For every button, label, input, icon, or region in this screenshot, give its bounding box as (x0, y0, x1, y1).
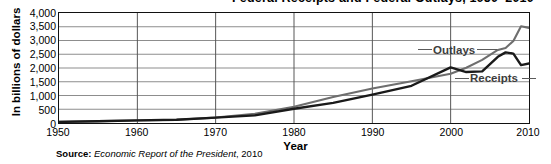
x-tick-label: 1990 (361, 126, 384, 138)
y-tick-label: 4,000 (10, 8, 56, 19)
y-tick-label: 1,500 (10, 77, 56, 88)
x-tick-label: 2010 (516, 126, 539, 138)
outlays-leader-line (418, 49, 432, 50)
receipts-leader-line-right (522, 78, 536, 79)
x-tick-label: 1960 (125, 126, 148, 138)
x-tick-label: 1980 (282, 126, 305, 138)
source-year: , 2010 (236, 148, 262, 159)
outlays-leader-line-right (477, 49, 497, 50)
x-tick-label: 1950 (46, 126, 69, 138)
y-tick-label: 1,000 (10, 91, 56, 102)
x-tick-label: 1970 (204, 126, 227, 138)
series-label-receipts: Receipts (470, 72, 518, 84)
series-label-outlays: Outlays (433, 44, 475, 56)
chart-figure: Federal Receipts and Federal Outlays, 19… (0, 0, 551, 164)
chart-title: Federal Receipts and Federal Outlays, 19… (232, 0, 534, 5)
y-tick-label: 3,500 (10, 21, 56, 32)
plot-svg (59, 13, 529, 123)
plot-area (58, 12, 530, 124)
receipts-leader-line (455, 78, 469, 79)
source-note: Source: Economic Report of the President… (56, 148, 262, 159)
y-tick-label: 2,000 (10, 63, 56, 74)
y-tick-label: 2,500 (10, 49, 56, 60)
x-axis-label-text: Year (283, 140, 307, 152)
x-axis-tick-labels: 1950 1960 1970 1980 1990 2000 2010 (0, 126, 551, 140)
source-label: Source: (56, 148, 91, 159)
y-tick-label: 3,000 (10, 35, 56, 46)
y-tick-label: 500 (10, 105, 56, 116)
x-tick-label: 2000 (440, 126, 463, 138)
source-publication: Economic Report of the President (94, 148, 236, 159)
